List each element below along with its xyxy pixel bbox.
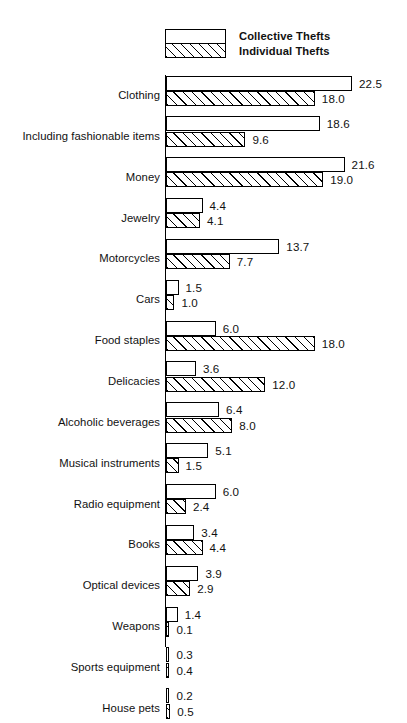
category-label: Radio equipment <box>74 484 160 525</box>
bar-collective <box>166 484 216 499</box>
bar-individual <box>166 172 323 187</box>
bar-collective <box>166 525 194 540</box>
legend-swatch-individual <box>166 44 225 58</box>
bar-row: Optical devices3.92.9 <box>0 565 407 606</box>
bar-individual <box>166 581 190 596</box>
bar-value-label: 4.1 <box>207 213 223 228</box>
category-label: Musical instruments <box>59 443 160 484</box>
bar-row: Jewelry4.44.1 <box>0 198 407 239</box>
category-label: Sports equipment <box>71 647 160 688</box>
bar-individual <box>166 622 169 637</box>
bar-individual <box>166 499 186 514</box>
legend-swatch-group <box>165 29 226 58</box>
bar-value-label: 18.0 <box>322 336 345 351</box>
bar-individual <box>166 254 230 269</box>
bar-individual <box>166 663 169 678</box>
legend-label-group: Collective Thefts Individual Thefts <box>239 29 330 58</box>
bar-collective <box>166 607 178 622</box>
bar-value-label: 22.5 <box>359 76 382 91</box>
bar-row: Books3.44.4 <box>0 524 407 565</box>
category-label: Food staples <box>95 320 160 361</box>
bar-collective <box>166 116 320 131</box>
bar-value-label: 1.4 <box>185 607 201 622</box>
bar-collective <box>166 321 216 336</box>
bar-value-label: 8.0 <box>239 418 255 433</box>
plot-area: Clothing22.518.0Including fashionable it… <box>0 75 407 647</box>
category-label: Cars <box>136 279 160 320</box>
bar-value-label: 0.3 <box>176 647 192 662</box>
bar-value-label: 19.0 <box>330 172 353 187</box>
bar-row: Money21.619.0 <box>0 157 407 198</box>
bar-individual <box>166 377 265 392</box>
bar-individual <box>166 458 178 473</box>
bar-value-label: 4.4 <box>210 540 226 555</box>
category-label: Jewelry <box>121 198 160 239</box>
bar-collective <box>166 443 208 458</box>
category-label: Optical devices <box>83 565 160 606</box>
bar-value-label: 0.4 <box>176 663 192 678</box>
bar-value-label: 2.4 <box>193 499 209 514</box>
bar-row: Alcoholic beverages6.48.0 <box>0 402 407 443</box>
bar-individual <box>166 295 174 310</box>
bar-row: Including fashionable items18.69.6 <box>0 116 407 157</box>
bar-collective <box>166 647 169 662</box>
bar-value-label: 0.2 <box>176 688 192 703</box>
category-label: Money <box>126 157 160 198</box>
bar-collective <box>166 198 202 213</box>
bar-value-label: 18.6 <box>327 116 350 131</box>
bar-individual <box>166 704 170 719</box>
legend-swatch-collective <box>166 30 225 44</box>
category-label: Books <box>128 524 160 565</box>
category-label: Alcoholic beverages <box>58 402 160 443</box>
bar-collective <box>166 402 219 417</box>
legend-label-individual: Individual Thefts <box>239 44 330 58</box>
bar-value-label: 13.7 <box>286 239 309 254</box>
bar-individual <box>166 91 315 106</box>
category-label: Weapons <box>112 606 160 647</box>
bar-individual <box>166 132 245 147</box>
bar-row: Delicacies3.612.0 <box>0 361 407 402</box>
bar-collective <box>166 280 178 295</box>
category-label: Clothing <box>118 75 160 116</box>
bar-value-label: 7.7 <box>237 254 253 269</box>
bar-collective <box>166 361 196 376</box>
bar-row: Weapons1.40.1 <box>0 606 407 647</box>
bar-individual <box>166 540 202 555</box>
legend-label-collective: Collective Thefts <box>239 29 330 43</box>
bar-individual <box>166 213 200 228</box>
bar-value-label: 1.0 <box>181 295 197 310</box>
bar-value-label: 18.0 <box>322 91 345 106</box>
bar-value-label: 1.5 <box>186 458 202 473</box>
bar-value-label: 0.5 <box>177 704 193 719</box>
bar-individual <box>166 418 232 433</box>
bar-value-label: 6.0 <box>223 484 239 499</box>
bar-row: Musical instruments5.11.5 <box>0 443 407 484</box>
bar-value-label: 2.9 <box>197 581 213 596</box>
bar-value-label: 12.0 <box>272 377 295 392</box>
bar-value-label: 0.1 <box>176 622 192 637</box>
bar-collective <box>166 239 279 254</box>
bar-row: Radio equipment6.02.4 <box>0 484 407 525</box>
bar-value-label: 5.1 <box>215 443 231 458</box>
bar-value-label: 3.4 <box>201 525 217 540</box>
bar-collective <box>166 157 344 172</box>
bar-value-label: 6.0 <box>223 321 239 336</box>
bar-value-label: 1.5 <box>186 280 202 295</box>
bar-value-label: 4.4 <box>210 198 226 213</box>
category-label: House pets <box>102 688 160 723</box>
category-label: Including fashionable items <box>22 116 160 157</box>
bar-row: Motorcycles13.77.7 <box>0 238 407 279</box>
category-label: Motorcycles <box>99 238 160 279</box>
bar-collective <box>166 76 352 91</box>
bar-value-label: 3.6 <box>203 361 219 376</box>
bar-row: Clothing22.518.0 <box>0 75 407 116</box>
bar-row: Food staples6.018.0 <box>0 320 407 361</box>
category-label: Delicacies <box>108 361 160 402</box>
bar-value-label: 3.9 <box>205 566 221 581</box>
bar-row: Cars1.51.0 <box>0 279 407 320</box>
bar-value-label: 6.4 <box>226 402 242 417</box>
bar-collective <box>166 688 169 703</box>
bar-row: House pets0.20.5 <box>0 688 407 723</box>
bar-value-label: 9.6 <box>252 132 268 147</box>
